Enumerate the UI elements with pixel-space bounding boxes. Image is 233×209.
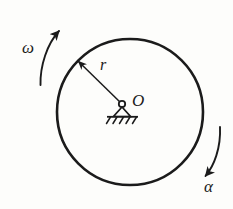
center-point-label: O xyxy=(132,92,144,109)
diagram-canvas xyxy=(0,0,233,209)
angular-velocity-arc-arrow xyxy=(40,31,59,85)
ground-hatching-icon xyxy=(107,117,137,124)
angular-velocity-label: ω xyxy=(22,39,34,56)
disk-outline xyxy=(57,39,203,185)
radius-label: r xyxy=(100,57,106,73)
angular-acceleration-arc-arrow xyxy=(206,127,221,176)
rotating-disk-diagram: ω α r O xyxy=(0,0,233,209)
pin-support-triangle-icon xyxy=(114,107,131,117)
angular-acceleration-label: α xyxy=(204,178,213,195)
